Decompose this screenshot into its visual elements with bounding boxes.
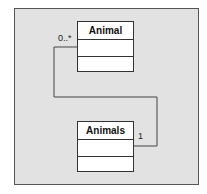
operations-section bbox=[78, 157, 133, 173]
class-animal[interactable]: Animal bbox=[77, 21, 134, 72]
class-name: Animal bbox=[78, 22, 133, 40]
attributes-section bbox=[78, 40, 133, 57]
attributes-section bbox=[78, 140, 133, 157]
operations-section bbox=[78, 57, 133, 73]
class-animals[interactable]: Animals bbox=[77, 121, 134, 172]
class-name: Animals bbox=[78, 122, 133, 140]
multiplicity-animals: 1 bbox=[138, 131, 143, 141]
multiplicity-animal: 0..* bbox=[58, 33, 72, 43]
